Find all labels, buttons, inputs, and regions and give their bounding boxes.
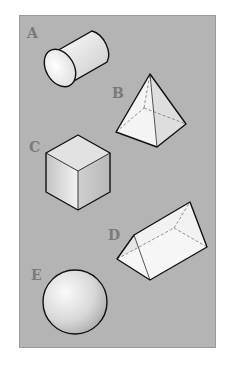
label-a: A [26, 25, 39, 41]
shape-d-prism: D [108, 202, 207, 280]
shape-e-sphere: E [31, 267, 107, 334]
label-e: E [31, 267, 42, 283]
shape-c-cube: C [29, 135, 110, 210]
shape-b-pyramid: B [112, 74, 186, 147]
label-b: B [112, 85, 124, 101]
label-c: C [29, 139, 40, 155]
label-d: D [108, 227, 120, 243]
shapes-diagram: A B C D E [0, 0, 226, 368]
shape-a-cylinder: A [26, 25, 109, 92]
